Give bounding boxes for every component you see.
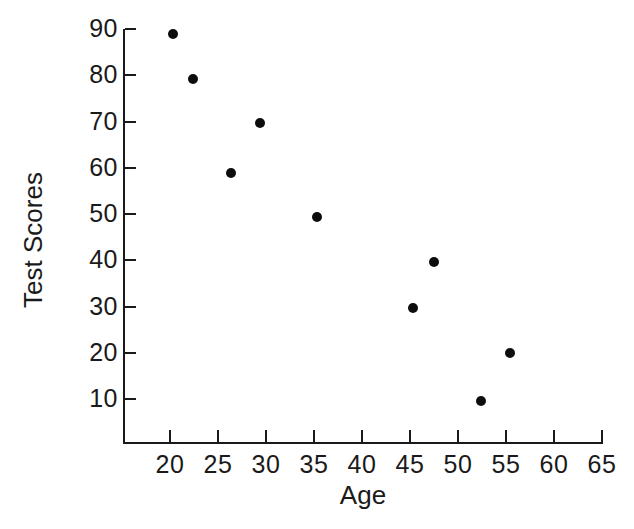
x-axis-line xyxy=(123,442,603,444)
y-axis-tick xyxy=(125,352,136,354)
x-axis-title: Age xyxy=(313,482,413,508)
x-axis-tick xyxy=(265,430,267,443)
y-axis-tick xyxy=(125,121,136,123)
x-axis-tick xyxy=(313,430,315,443)
x-axis-tick xyxy=(601,430,603,443)
y-axis-title: Test Scores xyxy=(20,145,46,335)
y-axis-tick xyxy=(125,213,136,215)
x-axis-tick xyxy=(505,430,507,443)
y-axis-tick-label: 60 xyxy=(66,155,118,180)
x-axis-tick-label: 65 xyxy=(572,452,632,477)
y-axis-tick-label: 40 xyxy=(66,247,118,272)
y-axis-tick-label: 20 xyxy=(66,340,118,365)
y-axis-tick-label: 90 xyxy=(66,16,118,41)
x-axis-tick xyxy=(553,430,555,443)
data-point xyxy=(476,396,486,406)
data-point xyxy=(505,348,515,358)
x-axis-tick xyxy=(217,430,219,443)
y-axis-tick xyxy=(125,398,136,400)
x-axis-tick xyxy=(361,430,363,443)
scatter-plot-figure: 102030405060708090 20253035404550556065 … xyxy=(0,0,634,529)
x-axis-tick xyxy=(457,430,459,443)
data-point xyxy=(226,168,236,178)
y-axis-tick xyxy=(125,259,136,261)
y-axis-tick xyxy=(125,306,136,308)
y-axis-tick xyxy=(125,74,136,76)
data-point xyxy=(312,212,322,222)
y-axis-tick-label: 50 xyxy=(66,201,118,226)
y-axis-line xyxy=(123,29,125,444)
y-axis-tick-label: 10 xyxy=(66,386,118,411)
data-point xyxy=(188,74,198,84)
data-point xyxy=(429,257,439,267)
y-axis-tick xyxy=(125,28,136,30)
y-axis-tick xyxy=(125,167,136,169)
data-point xyxy=(168,29,178,39)
y-axis-tick-label: 30 xyxy=(66,294,118,319)
y-axis-tick-label: 80 xyxy=(66,62,118,87)
x-axis-tick xyxy=(409,430,411,443)
y-axis-tick-label: 70 xyxy=(66,109,118,134)
data-point xyxy=(255,118,265,128)
data-point xyxy=(408,303,418,313)
x-axis-tick xyxy=(169,430,171,443)
